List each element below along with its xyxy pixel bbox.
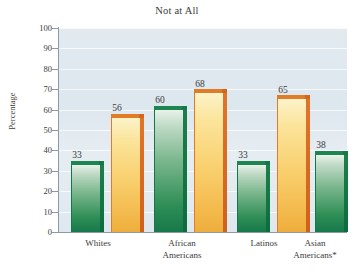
bar-front-face xyxy=(111,118,140,232)
x-category-line: African xyxy=(137,238,227,250)
y-axis-title: Percentage xyxy=(7,76,17,146)
gridline-80 xyxy=(59,69,347,70)
value-label-latinos-yellow: 65 xyxy=(268,86,298,96)
y-tick-label-20: 20 xyxy=(28,187,52,196)
x-category-line: Americans xyxy=(137,250,227,262)
plot-area xyxy=(59,28,347,232)
bar-front-face xyxy=(237,165,266,232)
y-tick-label-60: 60 xyxy=(28,106,52,115)
y-tick-90 xyxy=(52,48,58,49)
x-category-label-whites: Whites xyxy=(53,238,143,250)
value-label-asian-americans-green: 38 xyxy=(306,141,336,151)
value-label-whites-yellow: 56 xyxy=(102,104,132,114)
bar-front-face xyxy=(194,93,223,232)
x-category-label-asian-americans: Asian Americans* xyxy=(270,238,354,261)
bar-front-face xyxy=(277,99,306,232)
y-tick-30 xyxy=(52,171,58,172)
value-label-latinos-green: 33 xyxy=(228,151,258,161)
bar-african-americans-yellow[interactable] xyxy=(194,93,222,232)
bar-whites-green[interactable] xyxy=(71,165,99,232)
chart-container: Not at All Percentage xyxy=(0,0,354,273)
y-tick-70 xyxy=(52,89,58,90)
bar-asian-americans-green[interactable] xyxy=(315,155,343,233)
y-tick-50 xyxy=(52,130,58,131)
bar-african-americans-green[interactable] xyxy=(154,110,182,232)
y-tick-label-30: 30 xyxy=(28,167,52,176)
gridline-100 xyxy=(59,28,347,29)
y-tick-label-100: 100 xyxy=(28,24,52,33)
y-tick-100 xyxy=(52,28,58,29)
y-tick-0 xyxy=(52,232,58,233)
y-tick-label-70: 70 xyxy=(28,85,52,94)
bar-latinos-yellow[interactable] xyxy=(277,99,305,232)
bar-front-face xyxy=(71,165,100,232)
y-axis-line xyxy=(58,27,59,233)
y-tick-20 xyxy=(52,191,58,192)
y-tick-40 xyxy=(52,150,58,151)
y-tick-10 xyxy=(52,212,58,213)
gridline-90 xyxy=(59,48,347,49)
chart-title: Not at All xyxy=(0,5,354,16)
y-tick-label-90: 90 xyxy=(28,44,52,53)
y-tick-label-10: 10 xyxy=(28,208,52,217)
x-axis-line xyxy=(59,232,347,233)
value-label-african-americans-yellow: 68 xyxy=(185,80,215,90)
y-tick-label-40: 40 xyxy=(28,146,52,155)
x-category-line: Asian xyxy=(270,238,354,250)
bar-front-face xyxy=(315,155,344,233)
y-tick-80 xyxy=(52,69,58,70)
value-label-african-americans-green: 60 xyxy=(145,96,175,106)
bar-latinos-green[interactable] xyxy=(237,165,265,232)
x-category-label-african-americans: African Americans xyxy=(137,238,227,261)
x-category-line: Whites xyxy=(53,238,143,250)
bar-front-face xyxy=(154,110,183,232)
y-tick-label-50: 50 xyxy=(28,126,52,135)
y-tick-60 xyxy=(52,110,58,111)
x-category-line: Americans* xyxy=(270,250,354,262)
value-label-whites-green: 33 xyxy=(62,151,92,161)
bar-whites-yellow[interactable] xyxy=(111,118,139,232)
y-tick-label-80: 80 xyxy=(28,65,52,74)
y-tick-label-0: 0 xyxy=(28,228,52,237)
